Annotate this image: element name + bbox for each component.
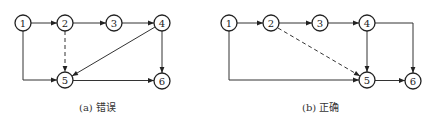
svg-text:2: 2 xyxy=(62,18,68,29)
node-b-5: 5 xyxy=(359,72,375,88)
panel-b-correct: 1 2 3 4 5 6 xyxy=(221,15,421,89)
caption-a: (a) 错误 xyxy=(79,99,116,114)
svg-text:3: 3 xyxy=(317,18,323,29)
edge-b-1-5 xyxy=(229,31,359,80)
node-a-6: 6 xyxy=(154,73,170,89)
edge-b-4-6 xyxy=(375,23,413,73)
svg-text:5: 5 xyxy=(62,75,68,86)
svg-text:5: 5 xyxy=(364,75,370,86)
svg-text:6: 6 xyxy=(410,76,416,87)
svg-text:3: 3 xyxy=(111,18,117,29)
node-b-3: 3 xyxy=(312,15,328,31)
node-a-2: 2 xyxy=(57,15,73,31)
edge-a-1-5 xyxy=(23,31,57,80)
svg-text:2: 2 xyxy=(268,18,274,29)
caption-b: (b) 正确 xyxy=(302,99,339,114)
node-b-2: 2 xyxy=(263,15,279,31)
svg-text:6: 6 xyxy=(159,76,165,87)
node-b-6: 6 xyxy=(405,73,421,89)
node-a-3: 3 xyxy=(106,15,122,31)
node-b-4: 4 xyxy=(359,15,375,31)
node-a-1: 1 xyxy=(15,15,31,31)
svg-text:4: 4 xyxy=(364,18,370,29)
edge-b-2-5-dummy xyxy=(278,28,360,76)
node-a-4: 4 xyxy=(154,15,170,31)
svg-text:4: 4 xyxy=(159,18,165,29)
network-diagram: 1 2 3 4 5 6 1 2 3 4 5 6 xyxy=(0,0,427,120)
node-a-5: 5 xyxy=(57,72,73,88)
svg-text:1: 1 xyxy=(226,18,232,29)
panel-a-wrong: 1 2 3 4 5 6 xyxy=(15,15,170,89)
edge-a-4-5 xyxy=(72,27,155,76)
svg-text:1: 1 xyxy=(20,18,26,29)
node-b-1: 1 xyxy=(221,15,237,31)
